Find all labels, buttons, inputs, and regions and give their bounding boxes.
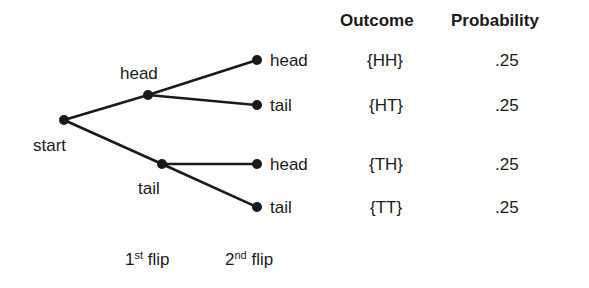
node-first-tail bbox=[157, 159, 167, 169]
probability-value: .25 bbox=[495, 156, 519, 173]
first-tail-label: tail bbox=[138, 180, 160, 197]
outcome-value: {TH} bbox=[369, 156, 403, 173]
outcome-value: {HH} bbox=[367, 52, 403, 69]
leaf-label: tail bbox=[270, 199, 292, 216]
edge-tail-tail bbox=[162, 164, 257, 207]
outcome-value: {TT} bbox=[370, 199, 402, 216]
probability-value: .25 bbox=[495, 97, 519, 114]
node-leaf-hh bbox=[252, 55, 262, 65]
node-leaf-th bbox=[252, 159, 262, 169]
second-flip-label: 2nd flip bbox=[225, 250, 273, 268]
node-first-head bbox=[143, 90, 153, 100]
node-leaf-tt bbox=[252, 202, 262, 212]
start-label: start bbox=[33, 137, 66, 154]
probability-header: Probability bbox=[451, 12, 539, 29]
first-flip-label: 1st flip bbox=[125, 250, 170, 268]
node-start bbox=[59, 115, 69, 125]
outcome-value: {HT} bbox=[369, 97, 403, 114]
leaf-label: head bbox=[270, 156, 308, 173]
edge-start-tail bbox=[64, 120, 162, 164]
probability-value: .25 bbox=[495, 52, 519, 69]
leaf-label: head bbox=[270, 52, 308, 69]
probability-tree bbox=[0, 0, 589, 288]
node-leaf-ht bbox=[252, 100, 262, 110]
probability-value: .25 bbox=[495, 199, 519, 216]
edge-start-head bbox=[64, 95, 148, 120]
outcome-header: Outcome bbox=[340, 12, 414, 29]
first-head-label: head bbox=[120, 65, 158, 82]
leaf-label: tail bbox=[270, 97, 292, 114]
edge-head-head bbox=[148, 60, 257, 95]
edge-head-tail bbox=[148, 95, 257, 105]
